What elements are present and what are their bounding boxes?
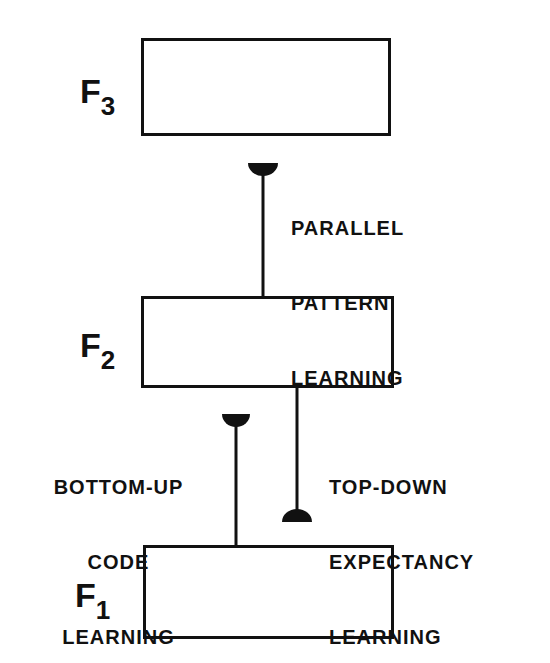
bottom-up-synapse-icon — [222, 414, 250, 427]
layer-f2-label: F2 — [80, 328, 115, 373]
layer-f2-letter: F — [80, 326, 101, 364]
layer-f2-subscript: 2 — [101, 345, 115, 375]
top-down-expectancy-learning-label: TOP-DOWN EXPECTANCY LEARNING — [329, 425, 474, 663]
layer-f3-letter: F — [80, 72, 101, 110]
label-line: LEARNING — [26, 625, 211, 650]
label-line: LEARNING — [329, 625, 474, 650]
layer-f3-label: F3 — [80, 74, 115, 119]
label-line: PATTERN — [291, 291, 404, 316]
label-line: EXPECTANCY — [329, 550, 474, 575]
parallel-pattern-learning-label: PARALLEL PATTERN LEARNING — [291, 166, 404, 416]
label-line: CODE — [26, 550, 211, 575]
label-line: PARALLEL — [291, 216, 404, 241]
top-down-synapse-icon — [282, 509, 312, 522]
label-line: BOTTOM-UP — [26, 475, 211, 500]
parallel-pathway-synapse-icon — [248, 163, 278, 176]
label-line: LEARNING — [291, 366, 404, 391]
bottom-up-code-learning-label: BOTTOM-UP CODE LEARNING — [26, 425, 211, 663]
layer-f3-subscript: 3 — [101, 91, 115, 121]
layer-f3-box — [141, 38, 391, 136]
label-line: TOP-DOWN — [329, 475, 474, 500]
